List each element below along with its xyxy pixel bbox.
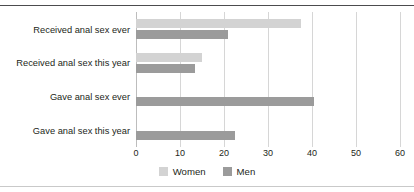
- y-axis-category-labels: Received anal sex ever Received anal sex…: [0, 12, 130, 147]
- women-swatch-icon: [159, 167, 168, 176]
- chart-legend: Women Men: [0, 166, 414, 177]
- chart-figure: Received anal sex ever Received anal sex…: [0, 0, 414, 192]
- x-tick-label: 60: [395, 148, 405, 159]
- bar-men: [136, 97, 314, 106]
- x-tick-label: 10: [175, 148, 185, 159]
- bar-men: [136, 64, 195, 73]
- bottom-divider-rule: [0, 186, 414, 187]
- category-label: Gave anal sex this year: [0, 126, 130, 136]
- category-label: Received anal sex ever: [0, 25, 130, 35]
- x-axis-tick-labels: 0102030405060: [136, 148, 400, 162]
- bar-group-gave-this-year: [136, 113, 400, 147]
- legend-label-men: Men: [237, 166, 256, 177]
- category-label: Gave anal sex ever: [0, 92, 130, 102]
- bar-men: [136, 30, 228, 39]
- top-divider-rule: [0, 5, 414, 6]
- bar-group-received-this-year: [136, 46, 400, 80]
- x-tick-label: 30: [263, 148, 273, 159]
- bar-group-gave-ever: [136, 80, 400, 114]
- legend-item-women: Women: [159, 166, 206, 177]
- x-tick-label: 20: [219, 148, 229, 159]
- x-tick-label: 0: [133, 148, 138, 159]
- men-swatch-icon: [223, 167, 232, 176]
- plot-area: [136, 12, 400, 147]
- legend-label-women: Women: [173, 166, 206, 177]
- bar-women: [136, 19, 301, 28]
- gridline: [400, 12, 401, 147]
- bar-group-received-ever: [136, 12, 400, 46]
- category-label: Received anal sex this year: [0, 58, 130, 68]
- bar-men: [136, 131, 235, 140]
- x-tick-label: 50: [351, 148, 361, 159]
- bar-women: [136, 53, 202, 62]
- legend-item-men: Men: [223, 166, 256, 177]
- x-tick-label: 40: [307, 148, 317, 159]
